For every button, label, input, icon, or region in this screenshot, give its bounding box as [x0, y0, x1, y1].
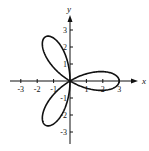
y-tick-label: -1 — [60, 94, 67, 103]
y-axis-label: y — [66, 4, 71, 14]
y-tick-label: -3 — [60, 128, 67, 137]
x-tick-label: -1 — [50, 85, 57, 94]
y-axis-arrow-icon — [68, 15, 73, 22]
x-tick-label: -3 — [17, 85, 24, 94]
x-axis-arrow-icon — [131, 79, 138, 84]
tick-labels: xy-3-2-1123321-1-2-3 — [17, 4, 146, 137]
rose-curve-chart: xy-3-2-1123321-1-2-3 — [0, 0, 149, 151]
y-tick-label: -2 — [60, 111, 67, 120]
y-tick-label: 1 — [63, 60, 67, 69]
y-tick-label: 2 — [63, 43, 67, 52]
x-tick-label: -2 — [34, 85, 41, 94]
x-tick-label: 2 — [101, 85, 105, 94]
x-tick-label: 1 — [84, 85, 88, 94]
y-tick-label: 3 — [63, 26, 67, 35]
x-tick-label: 3 — [117, 85, 121, 94]
x-axis-label: x — [141, 76, 146, 86]
